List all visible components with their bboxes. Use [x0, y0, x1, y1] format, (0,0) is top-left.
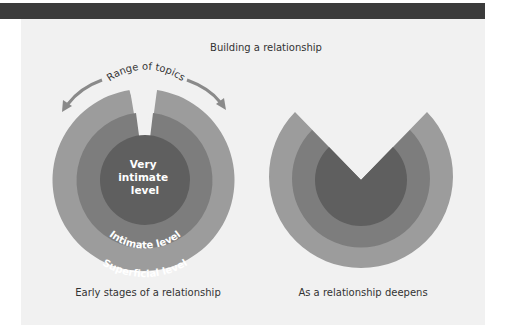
right-arrow-icon [187, 80, 220, 102]
range-of-topics-label: Range of topics [105, 61, 188, 83]
figure-title: Building a relationship [210, 42, 322, 53]
right-caption: As a relationship deepens [298, 287, 427, 298]
left-arrow-icon [68, 80, 102, 104]
left-diagram: Very intimate level Intimate level Super… [53, 61, 235, 298]
left-caption: Early stages of a relationship [75, 287, 220, 298]
relationship-diagram: Building a relationship Very intimate le… [0, 0, 506, 336]
right-diagram: As a relationship deepens [269, 112, 453, 298]
